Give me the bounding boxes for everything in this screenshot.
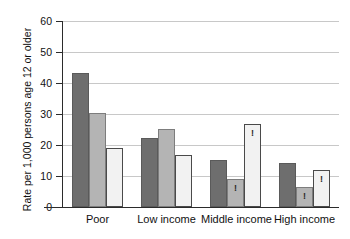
- bar: [210, 160, 227, 207]
- y-axis-tick-label-wrap: 50: [24, 47, 52, 57]
- y-axis-tick-label: 60: [28, 16, 52, 26]
- bar: !: [227, 179, 244, 207]
- bar-caution-flag: !: [314, 175, 329, 184]
- x-axis-category-label: Poor: [63, 212, 132, 226]
- y-axis-tick-label: 10: [28, 171, 52, 181]
- bar: [158, 129, 175, 207]
- y-axis-tick-label-wrap: 30: [24, 109, 52, 119]
- bar: [175, 155, 192, 207]
- x-axis-category-label: Low income: [132, 212, 201, 226]
- x-axis-line: [44, 207, 339, 208]
- bar-caution-flag: !: [245, 129, 260, 138]
- bar: [72, 73, 89, 207]
- bar: !: [244, 124, 261, 207]
- bar: !: [313, 170, 330, 207]
- bar-chart: Rate per 1,000 persons age 12 or older 0…: [0, 0, 350, 239]
- bar: [279, 163, 296, 207]
- x-axis-category-label: High income: [270, 212, 339, 226]
- y-axis-tick-label: 30: [28, 109, 52, 119]
- bar-caution-flag: !: [228, 184, 243, 193]
- bar: [89, 113, 106, 207]
- y-axis-tick-label-wrap: 10: [24, 171, 52, 181]
- gridline: [63, 83, 339, 84]
- y-axis-tick-label-wrap: 20: [24, 140, 52, 150]
- bar: [141, 138, 158, 207]
- y-axis-tick-label-wrap: 60: [24, 16, 52, 26]
- gridline: [63, 52, 339, 53]
- y-axis-tick-label: 20: [28, 140, 52, 150]
- y-axis-tick-label: 40: [28, 78, 52, 88]
- gridline: [63, 21, 339, 22]
- bar: [106, 148, 123, 207]
- y-axis-tick-label: 50: [28, 47, 52, 57]
- y-axis-tick-label-wrap: 40: [24, 78, 52, 88]
- plot-area: !!!!: [63, 21, 339, 207]
- bar-caution-flag: !: [297, 192, 312, 201]
- x-axis-category-label: Middle income: [201, 212, 270, 226]
- bar: !: [296, 187, 313, 207]
